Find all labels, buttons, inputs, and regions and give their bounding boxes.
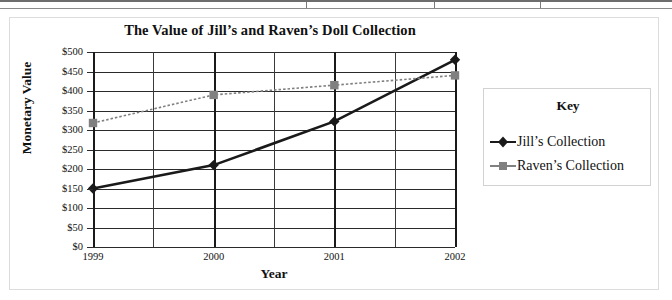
y-tick-mark <box>87 247 93 248</box>
legend-label-jill: Jill’s Collection <box>517 134 605 150</box>
chart-title: The Value of Jill’s and Raven’s Doll Col… <box>60 22 480 39</box>
y-tick-mark <box>87 130 93 131</box>
gridline-horizontal <box>93 247 455 248</box>
legend-box: Key Jill’s Collection Raven’s Collection <box>483 88 651 186</box>
y-tick-label: $150 <box>31 184 83 195</box>
y-tick-label: $50 <box>31 223 83 234</box>
y-tick-label: $300 <box>31 125 83 136</box>
y-tick-label: $500 <box>31 47 83 58</box>
legend-title: Key <box>484 98 652 114</box>
y-tick-mark <box>87 91 93 92</box>
y-tick-label: $0 <box>31 242 83 253</box>
square-marker-icon <box>490 158 516 174</box>
axis-ticks: $500$450$400$350$300$250$200$150$100$50$… <box>93 52 455 247</box>
legend-item-jill[interactable]: Jill’s Collection <box>490 131 652 153</box>
y-tick-label: $250 <box>31 145 83 156</box>
y-tick-mark <box>87 228 93 229</box>
y-tick-label: $450 <box>31 67 83 78</box>
y-tick-mark <box>87 150 93 151</box>
legend-item-raven[interactable]: Raven’s Collection <box>490 155 652 177</box>
y-tick-mark <box>87 169 93 170</box>
y-tick-mark <box>87 208 93 209</box>
y-tick-mark <box>87 72 93 73</box>
y-tick-mark <box>87 189 93 190</box>
y-tick-label: $200 <box>31 164 83 175</box>
gridline-vertical-major <box>455 52 457 247</box>
y-tick-label: $350 <box>31 106 83 117</box>
diamond-marker-icon <box>490 134 516 150</box>
y-tick-mark <box>87 111 93 112</box>
y-tick-label: $100 <box>31 203 83 214</box>
x-tick-label: 2000 <box>184 252 244 263</box>
x-tick-label: 1999 <box>63 252 123 263</box>
x-axis-title: Year <box>93 266 455 282</box>
y-tick-mark <box>87 52 93 53</box>
y-tick-label: $400 <box>31 86 83 97</box>
x-tick-label: 2001 <box>304 252 364 263</box>
x-tick-label: 2002 <box>425 252 485 263</box>
legend-label-raven: Raven’s Collection <box>517 158 624 174</box>
scan-artifact-band <box>0 0 672 9</box>
